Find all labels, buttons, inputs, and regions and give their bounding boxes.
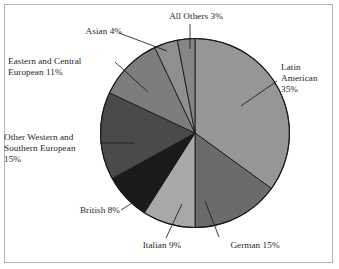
slice-label-all-others: All Others 3%	[148, 11, 244, 22]
slice-label-british: British 8%	[48, 205, 120, 216]
leader-line-asian	[119, 33, 167, 51]
slice-label-asian-text: Asian 4%	[86, 26, 122, 36]
slice-label-latin-line2: American	[281, 73, 337, 84]
slice-label-italian: Italian 9%	[126, 240, 198, 251]
slice-label-other-western-southern-european: Other Western and Southern European 15%	[4, 132, 120, 166]
slice-label-other-western-line2: Southern European	[4, 143, 120, 154]
slice-label-other-western-line3: 15%	[4, 154, 120, 165]
slice-label-german-text: German 15%	[230, 240, 279, 250]
slice-label-eastern-central-european: Eastern and Central European 11%	[8, 56, 120, 78]
pie-chart-figure: All Others 3% Asian 4% Eastern and Centr…	[0, 0, 339, 269]
pie-slice-group	[100, 38, 289, 227]
slice-label-british-text: British 8%	[80, 205, 120, 215]
slice-label-asian: Asian 4%	[54, 26, 122, 37]
slice-label-eastern-central-line2: European 11%	[8, 67, 120, 78]
slice-label-german: German 15%	[212, 240, 298, 251]
slice-label-latin-line1: Latin	[281, 62, 337, 73]
slice-label-all-others-text: All Others 3%	[169, 11, 223, 21]
slice-label-italian-text: Italian 9%	[143, 240, 182, 250]
slice-label-other-western-line1: Other Western and	[4, 132, 120, 143]
slice-label-latin-american: Latin American 35%	[281, 62, 337, 96]
slice-label-latin-line3: 35%	[281, 84, 337, 95]
slice-label-eastern-central-line1: Eastern and Central	[8, 56, 120, 67]
